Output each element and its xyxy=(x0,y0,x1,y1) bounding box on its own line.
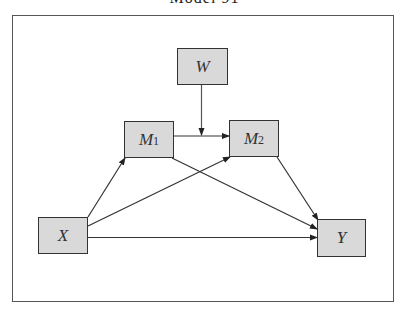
node-x: X xyxy=(38,217,88,254)
node-m1-label: M xyxy=(139,130,153,150)
node-m2-subscript: 2 xyxy=(258,133,264,148)
node-m2-label: M xyxy=(244,129,258,149)
node-w-label: W xyxy=(195,57,209,77)
node-y-label: Y xyxy=(337,228,346,248)
node-m2: M2 xyxy=(229,120,279,157)
node-m1-subscript: 1 xyxy=(153,134,159,149)
node-m1: M1 xyxy=(124,121,174,158)
node-x-label: X xyxy=(58,226,68,246)
diagram-title: Model 91 xyxy=(0,0,409,7)
node-y: Y xyxy=(317,219,366,257)
node-w: W xyxy=(177,48,228,85)
